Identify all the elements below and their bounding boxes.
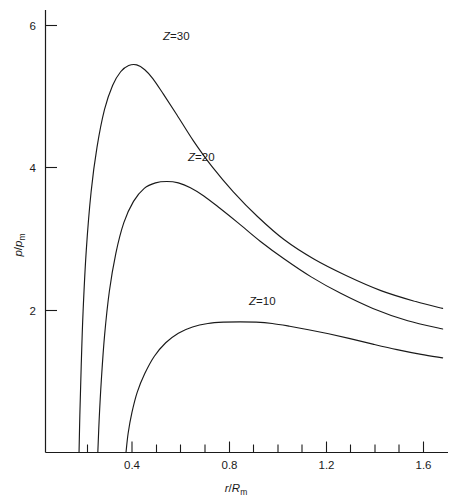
chart-svg: Z=30 Z=20 Z=10 6 4 2 0.4 0.8 1.2 1.6 p/p… (0, 0, 450, 499)
y-tick-label-6: 6 (30, 20, 36, 32)
x-tick-label-16: 1.6 (416, 459, 432, 471)
x-axis-title-den-sub: m (240, 487, 247, 497)
x-tick-marks (88, 442, 424, 453)
curve-z20 (98, 182, 443, 453)
series-label-z30: Z=30 (162, 30, 190, 42)
y-axis-title: p/pm (12, 233, 27, 257)
curve-z10 (126, 322, 443, 453)
series-label-z20: Z=20 (187, 151, 215, 163)
x-tick-label-08: 0.8 (222, 459, 238, 471)
svg-text:p/pm: p/pm (12, 233, 27, 257)
chart-figure: Z=30 Z=20 Z=10 6 4 2 0.4 0.8 1.2 1.6 p/p… (0, 0, 450, 499)
series-label-z10-eq: =10 (256, 295, 276, 307)
curve-z30 (79, 64, 443, 452)
x-axis-title: r/Rm (225, 482, 247, 497)
y-tick-label-4: 4 (30, 162, 37, 174)
y-tick-marks (46, 26, 58, 311)
series-label-z20-eq: =20 (195, 151, 215, 163)
series-label-z30-eq: =30 (170, 30, 190, 42)
x-tick-label-12: 1.2 (319, 459, 335, 471)
x-tick-label-04: 0.4 (124, 459, 141, 471)
y-axis-title-den-sub: m (17, 233, 27, 240)
y-tick-label-2: 2 (30, 305, 36, 317)
series-label-z10: Z=10 (248, 295, 276, 307)
x-axis-title-den: R (232, 482, 240, 494)
